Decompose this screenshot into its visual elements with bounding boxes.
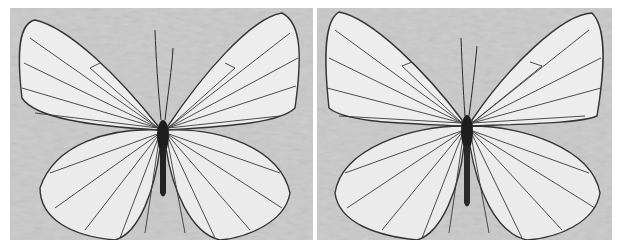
- butterfly-illustration-right: [317, 8, 612, 240]
- butterfly-thorax: [157, 120, 169, 152]
- butterfly-thorax: [461, 115, 473, 149]
- butterfly-abdomen: [464, 146, 470, 207]
- photo-panel-right: butterfly-dorsal-view: [317, 8, 612, 240]
- butterfly-illustration-left: [10, 8, 313, 240]
- butterfly-abdomen: [160, 148, 166, 197]
- photo-panel-left: butterfly-dorsal-view: [10, 8, 313, 240]
